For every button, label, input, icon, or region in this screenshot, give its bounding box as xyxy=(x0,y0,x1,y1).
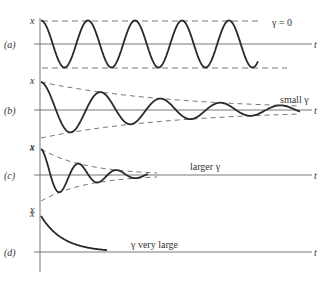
x-axis-label: x xyxy=(29,75,35,86)
overdamped-curve xyxy=(41,216,107,250)
damped-oscillation-figure: x (a) t γ = 0 x (b) t small γ x x (c) t … xyxy=(0,0,331,282)
panel-b: x (b) t small γ x xyxy=(4,75,317,152)
envelope-lower xyxy=(41,177,157,201)
panel-tag: (d) xyxy=(4,247,16,259)
x-axis-label: x xyxy=(29,208,35,219)
panel-tag: (a) xyxy=(4,39,16,51)
oscillation-curve xyxy=(41,82,300,132)
envelope-lower xyxy=(41,114,297,138)
panel-tag: (c) xyxy=(4,170,16,182)
panel-a: x (a) t γ = 0 xyxy=(4,15,317,68)
panel-d: x (d) t γ very large xyxy=(4,208,317,259)
panel-tag: (b) xyxy=(4,105,16,117)
panel-c: x (c) t larger γ x xyxy=(4,142,317,215)
gamma-annotation: γ very large xyxy=(130,239,179,250)
x-axis-label: x xyxy=(29,15,35,26)
gamma-annotation: γ = 0 xyxy=(271,17,292,28)
envelope-upper xyxy=(41,149,157,173)
gamma-annotation: larger γ xyxy=(190,161,221,172)
t-axis-label: t xyxy=(314,105,317,116)
t-axis-label: t xyxy=(314,39,317,50)
oscillation-curve xyxy=(41,149,148,192)
t-axis-label: t xyxy=(314,247,317,258)
gamma-annotation: small γ xyxy=(280,94,309,105)
x-axis-label: x xyxy=(29,142,35,153)
t-axis-label: t xyxy=(314,170,317,181)
